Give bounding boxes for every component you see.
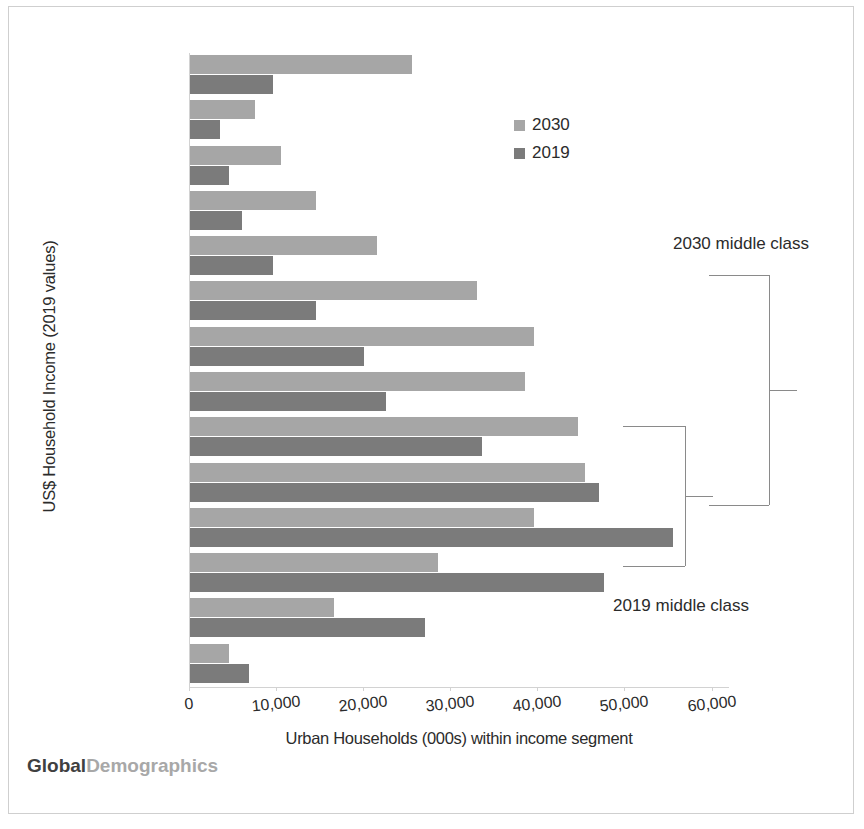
bar-2030-57000 (190, 191, 316, 210)
bar-row: 21000 (190, 461, 730, 506)
bar-2019-50000 (190, 256, 273, 275)
bar-2019-8000 (190, 618, 425, 637)
bar-row: 71000 (190, 98, 730, 143)
x-axis-tick-label: 50,000 (599, 692, 650, 715)
bar-2030-42000 (190, 281, 477, 300)
logo-primary: Global (27, 755, 86, 776)
y-axis-title: US$ Household Income (2019 values) (40, 187, 59, 567)
x-axis-tick-label: 10,000 (251, 692, 302, 715)
bar-row: 12000 (190, 551, 730, 596)
legend-label-2030: 2030 (532, 115, 570, 135)
bar-2019-21000 (190, 483, 599, 502)
x-axis-tick-label: 30,000 (425, 692, 476, 715)
bar-2019-4000 (190, 664, 249, 683)
bar-row: 30000 (190, 370, 730, 415)
bar-row: Plus (190, 53, 730, 98)
bar-row: 64000 (190, 144, 730, 189)
x-axis-title: Urban Households (000s) within income se… (149, 729, 769, 748)
bar-2019-25000 (190, 437, 482, 456)
bar-2030-71000 (190, 100, 255, 119)
bar-2019-35000 (190, 347, 364, 366)
x-axis-tick (624, 687, 625, 691)
legend-item-2030: 2030 (514, 111, 570, 139)
legend-swatch-2019 (514, 148, 525, 159)
bar-2030-64000 (190, 146, 281, 165)
bar-2019-17000 (190, 528, 673, 547)
legend-swatch-2030 (514, 120, 525, 131)
x-axis-tick-label: 60,000 (686, 692, 737, 715)
bar-2030-12000 (190, 553, 438, 572)
bar-row: 50000 (190, 234, 730, 279)
bar-2019-64000 (190, 166, 229, 185)
bar-2030-Plus (190, 55, 412, 74)
bar-row: 25000 (190, 415, 730, 460)
x-axis-tick (712, 687, 713, 691)
bar-row: 4000 (190, 642, 730, 687)
legend-label-2019: 2019 (532, 143, 570, 163)
bar-row: 17000 (190, 506, 730, 551)
global-demographics-logo: GlobalDemographics (27, 755, 218, 777)
x-axis-tick (189, 687, 190, 691)
bar-2030-30000 (190, 372, 525, 391)
bar-row: 57000 (190, 189, 730, 234)
x-axis-tick-label: 20,000 (338, 692, 389, 715)
annotation-2030-middle-class: 2030 middle class (673, 233, 823, 256)
bar-2030-35000 (190, 327, 534, 346)
x-axis-tick-label: 0 (184, 695, 195, 714)
x-axis-tick (537, 687, 538, 691)
x-axis (189, 687, 729, 688)
legend-item-2019: 2019 (514, 139, 570, 167)
bar-row: 42000 (190, 279, 730, 324)
bar-2030-21000 (190, 463, 585, 482)
bar-2019-42000 (190, 301, 316, 320)
bar-2030-25000 (190, 417, 578, 436)
bar-2030-17000 (190, 508, 534, 527)
x-axis-tick (363, 687, 364, 691)
x-axis-tick (450, 687, 451, 691)
bar-2019-12000 (190, 573, 604, 592)
bar-row: 35000 (190, 325, 730, 370)
bar-2030-4000 (190, 644, 229, 663)
x-axis-tick (276, 687, 277, 691)
bar-2019-71000 (190, 120, 220, 139)
logo-secondary: Demographics (86, 755, 218, 776)
chart-legend: 2030 2019 (514, 111, 570, 167)
x-axis-tick-label: 40,000 (512, 692, 563, 715)
bar-2030-8000 (190, 598, 334, 617)
chart-frame: US$ Household Income (2019 values) Plus7… (8, 6, 854, 814)
plot-area: Plus710006400057000500004200035000300002… (189, 53, 729, 687)
bar-2030-50000 (190, 236, 377, 255)
bar-2019-57000 (190, 211, 242, 230)
bar-2019-30000 (190, 392, 386, 411)
annotation-2019-middle-class: 2019 middle class (613, 595, 763, 618)
bar-2019-Plus (190, 75, 273, 94)
